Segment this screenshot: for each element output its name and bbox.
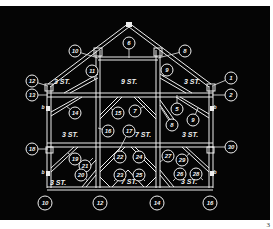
notch-left-upper: [46, 106, 50, 111]
queen-post-right: [156, 50, 160, 188]
axis-number: 12: [97, 200, 104, 206]
callout: 14: [66, 106, 81, 119]
callout: 18: [26, 143, 48, 155]
peak-block: [126, 22, 132, 27]
room-label: 3 ST.: [62, 131, 78, 138]
side-mark: b: [41, 104, 44, 110]
callout-number: 24: [135, 154, 143, 160]
callout: 24: [133, 151, 145, 163]
brace-lower-right-2: [160, 170, 174, 187]
leader-line: [173, 178, 176, 181]
callout: 1: [212, 72, 237, 86]
axis-marker: 14: [150, 196, 164, 210]
callout-number: 13: [29, 92, 36, 98]
callout: 28: [190, 168, 203, 180]
callout: 29: [176, 153, 190, 166]
tie-beam-middle: [47, 143, 213, 147]
callout: 19: [68, 153, 81, 165]
callout: 22: [114, 151, 126, 163]
leader-line: [66, 106, 70, 109]
callout: 26: [173, 168, 186, 181]
page-number: 3: [267, 221, 271, 229]
callout-number: 30: [228, 144, 235, 150]
callout-number: 27: [164, 153, 172, 159]
structural-section-drawing: 9 ST.3 ST.3 ST.3 ST.7 ST.3 ST.3 ST.7 ST.…: [0, 0, 273, 229]
post-cap-left: [94, 48, 102, 56]
callout-number: 15: [115, 110, 122, 116]
callout-number: 18: [29, 146, 36, 152]
callout: 2: [212, 89, 237, 101]
callout: 30: [212, 141, 237, 153]
callout-number: 11: [89, 68, 96, 74]
axis-number: 14: [154, 200, 161, 206]
room-label: 7 ST.: [135, 131, 151, 138]
callout: 6: [123, 37, 135, 58]
callout-number: 2: [228, 92, 233, 98]
callout-number: 17: [126, 128, 133, 134]
room-label: 3 ST.: [182, 131, 198, 138]
callout-number: 16: [105, 128, 112, 134]
callout-number: 19: [72, 156, 79, 162]
sill-beam: [47, 187, 213, 190]
callout: 23: [114, 169, 126, 181]
room-label: 3 ST.: [184, 78, 200, 85]
leader-line: [94, 77, 95, 80]
room-label: 3 ST.: [54, 78, 70, 85]
callout: 27: [160, 150, 174, 162]
callouts: 1068119121132141575891617183019212022242…: [26, 37, 237, 181]
callout: 7: [129, 105, 145, 117]
axis-number: 10: [42, 200, 49, 206]
side-mark: b: [41, 169, 44, 175]
axis-number: 16: [207, 200, 214, 206]
callout: 9: [187, 108, 199, 126]
callout-number: 10: [72, 48, 79, 54]
callout-number: 14: [72, 110, 79, 116]
callout: 12: [26, 75, 48, 87]
side-mark: b: [213, 169, 216, 175]
tie-beam-upper: [47, 93, 213, 97]
room-label: 3 ST.: [50, 179, 66, 186]
callout: 8: [158, 45, 191, 58]
axis-marker: 10: [38, 196, 52, 210]
callout-number: 20: [77, 172, 85, 178]
room-label: 9 ST.: [121, 78, 137, 85]
collar-beam: [98, 57, 158, 60]
callout: 25: [133, 169, 145, 181]
callout: 9: [161, 64, 173, 77]
callout-number: 26: [176, 171, 184, 177]
notch-left-lower: [46, 171, 50, 176]
axis-marker: 12: [93, 196, 107, 210]
axis-markers: 10121416: [38, 196, 217, 210]
callout-number: 23: [116, 172, 124, 178]
callout: 15: [110, 107, 124, 119]
leader-line: [212, 80, 225, 86]
side-mark: b: [213, 104, 216, 110]
callout-number: 28: [192, 171, 200, 177]
callout-number: 25: [135, 172, 143, 178]
axis-marker: 16: [203, 196, 217, 210]
callout-number: 29: [178, 157, 186, 163]
callout-number: 22: [116, 154, 124, 160]
callout-number: 12: [29, 78, 36, 84]
callout-number: 21: [81, 163, 89, 169]
leader-line: [89, 158, 93, 162]
